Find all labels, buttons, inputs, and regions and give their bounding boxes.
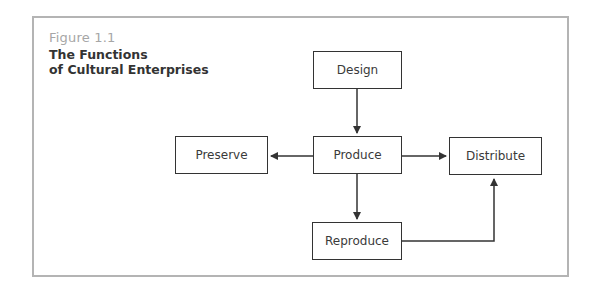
node-reproduce-label: Reproduce xyxy=(325,234,389,248)
node-distribute-label: Distribute xyxy=(466,149,525,163)
node-design: Design xyxy=(313,51,402,89)
node-preserve-label: Preserve xyxy=(195,148,247,162)
node-reproduce: Reproduce xyxy=(312,222,402,260)
node-distribute: Distribute xyxy=(449,137,542,175)
node-design-label: Design xyxy=(337,63,378,77)
node-produce-label: Produce xyxy=(333,148,381,162)
node-preserve: Preserve xyxy=(175,136,268,174)
node-produce: Produce xyxy=(313,136,402,174)
